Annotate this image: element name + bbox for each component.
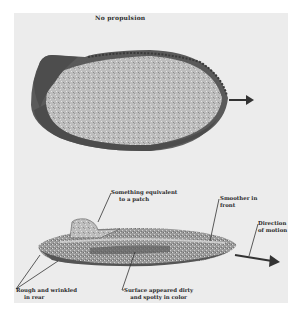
side-view-craft [38,219,236,266]
annotation-surface: Surface appeared dirty and spotty in col… [124,287,193,301]
annotation-patch-line2: to a patch [111,196,177,203]
annotation-smoother-line2: front [220,202,257,209]
top-craft-surface [46,56,222,145]
annotation-smoother: Smoother in front [220,195,257,209]
annotation-surface-line1: Surface appeared dirty [124,287,193,294]
annotation-rough-line2: in rear [16,294,77,301]
leader-rough-2 [16,261,58,289]
annotation-surface-line2: and spotty in color [124,294,193,301]
direction-arrow-top [229,95,254,105]
top-view-craft [31,50,228,151]
annotation-direction-line2: of motion [258,227,287,234]
annotation-patch-line1: Something equivalent [111,189,177,196]
annotation-rough-line1: Rough and wrinkled [16,287,77,294]
direction-arrow-side [235,255,280,267]
annotation-patch: Something equivalent to a patch [111,189,177,203]
leader-smoother [210,199,219,241]
annotation-rough: Rough and wrinkled in rear [16,287,77,301]
leader-rough-1 [16,255,40,289]
leader-patch [98,193,111,222]
annotation-direction-line1: Direction [258,220,287,227]
figure-caption: No propulsion [95,14,145,21]
illustration [0,0,302,317]
annotation-smoother-line1: Smoother in [220,195,257,202]
leader-direction [249,224,258,256]
annotation-direction: Direction of motion [258,220,287,234]
